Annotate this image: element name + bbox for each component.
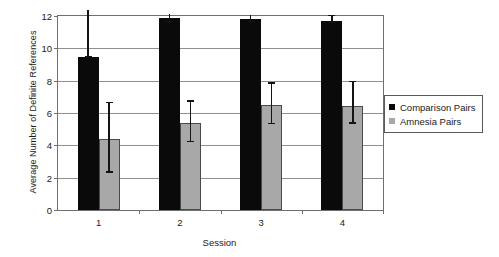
- error-cap-lower: [85, 56, 92, 58]
- y-axis-title: Average Number of Definite References: [28, 7, 38, 217]
- legend-swatch-comparison-pairs: [389, 104, 395, 110]
- x-tick-label: 1: [96, 217, 101, 228]
- legend-label-amnesia-pairs: Amnesia Pairs: [400, 116, 461, 127]
- bar-comparison-pairs: [321, 21, 342, 210]
- error-bar: [87, 10, 89, 57]
- bar-group: [139, 16, 220, 210]
- bar-comparison-pairs: [240, 19, 261, 210]
- error-bar: [271, 84, 273, 124]
- bar-group: [221, 16, 302, 210]
- y-tick-label: 8: [47, 75, 52, 86]
- y-tick-label: 2: [47, 172, 52, 183]
- x-tick-mark: [139, 210, 140, 214]
- error-cap-lower: [328, 22, 335, 24]
- error-cap-upper: [187, 100, 194, 102]
- x-tick-mark: [221, 210, 222, 214]
- y-tick-mark: [54, 210, 58, 211]
- y-tick-label: 4: [47, 140, 52, 151]
- bar-comparison-pairs: [78, 57, 99, 210]
- legend-label-comparison-pairs: Comparison Pairs: [400, 102, 476, 113]
- chart-legend: Comparison Pairs Amnesia Pairs: [384, 95, 483, 133]
- x-tick-mark: [302, 210, 303, 214]
- y-tick-label: 10: [41, 43, 52, 54]
- error-cap-lower: [268, 123, 275, 125]
- x-tick-label: 4: [340, 217, 345, 228]
- error-cap-lower: [187, 141, 194, 143]
- error-bar: [190, 102, 192, 142]
- error-cap-upper: [268, 82, 275, 84]
- bar-comparison-pairs: [159, 18, 180, 210]
- legend-item-amnesia-pairs: Amnesia Pairs: [389, 114, 476, 128]
- error-cap-lower: [349, 122, 356, 124]
- bar-group: [58, 16, 139, 210]
- error-cap-lower: [166, 21, 173, 23]
- legend-swatch-amnesia-pairs: [389, 118, 395, 124]
- plot-area: 0246810121234: [57, 15, 384, 211]
- x-tick-mark: [383, 210, 384, 214]
- x-axis-title: Session: [57, 237, 382, 248]
- error-bar: [352, 82, 354, 123]
- x-tick-label: 3: [258, 217, 263, 228]
- error-cap-upper: [349, 81, 356, 83]
- y-tick-label: 6: [47, 108, 52, 119]
- y-tick-label: 0: [47, 205, 52, 216]
- error-cap-lower: [247, 21, 254, 23]
- bar-group: [302, 16, 383, 210]
- x-tick-label: 2: [177, 217, 182, 228]
- legend-item-comparison-pairs: Comparison Pairs: [389, 100, 476, 114]
- error-cap-upper: [328, 15, 335, 17]
- bar-chart-figure: Average Number of Definite References 02…: [0, 0, 499, 257]
- error-bar: [108, 103, 110, 173]
- error-cap-lower: [106, 171, 113, 173]
- y-tick-label: 12: [41, 11, 52, 22]
- error-cap-upper: [106, 102, 113, 104]
